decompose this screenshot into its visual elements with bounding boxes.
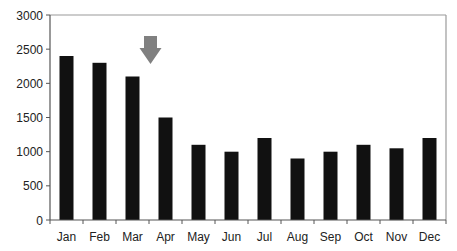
bar-feb [93, 63, 107, 220]
bar-jan [60, 56, 74, 220]
x-tick-label: Oct [354, 230, 373, 244]
x-axis-tick-labels: JanFebMarAprMayJunJulAugSepOctNovDec [57, 230, 440, 244]
x-tick-label: Jul [257, 230, 272, 244]
bar-jul [258, 138, 272, 220]
bar-sep [324, 152, 338, 220]
x-tick-label: Dec [419, 230, 440, 244]
y-tick-label: 500 [23, 179, 43, 193]
bar-apr [159, 118, 173, 221]
y-tick-label: 1000 [16, 145, 43, 159]
bars [60, 56, 437, 220]
x-tick-label: Aug [287, 230, 308, 244]
bar-oct [357, 145, 371, 220]
x-tick-label: Jan [57, 230, 76, 244]
x-tick-label: Sep [320, 230, 342, 244]
y-tick-label: 2500 [16, 43, 43, 57]
y-tick-label: 0 [36, 214, 43, 228]
bar-jun [225, 152, 239, 220]
down-arrow-icon [140, 36, 162, 64]
x-tick-label: May [187, 230, 210, 244]
bar-may [192, 145, 206, 220]
x-tick-label: Apr [156, 230, 175, 244]
bar-dec [423, 138, 437, 220]
bar-chart: 050010001500200025003000 JanFebMarAprMay… [0, 0, 457, 251]
plot-frame [50, 15, 446, 220]
bar-aug [291, 159, 305, 221]
x-tick-label: Jun [222, 230, 241, 244]
bar-nov [390, 148, 404, 220]
y-axis-tick-labels: 050010001500200025003000 [16, 9, 43, 228]
y-tick-label: 3000 [16, 9, 43, 23]
x-tick-label: Feb [89, 230, 110, 244]
y-tick-label: 2000 [16, 77, 43, 91]
y-tick-label: 1500 [16, 111, 43, 125]
bar-mar [126, 77, 140, 221]
annotations [140, 36, 162, 64]
x-tick-label: Nov [386, 230, 407, 244]
x-tick-label: Mar [122, 230, 143, 244]
